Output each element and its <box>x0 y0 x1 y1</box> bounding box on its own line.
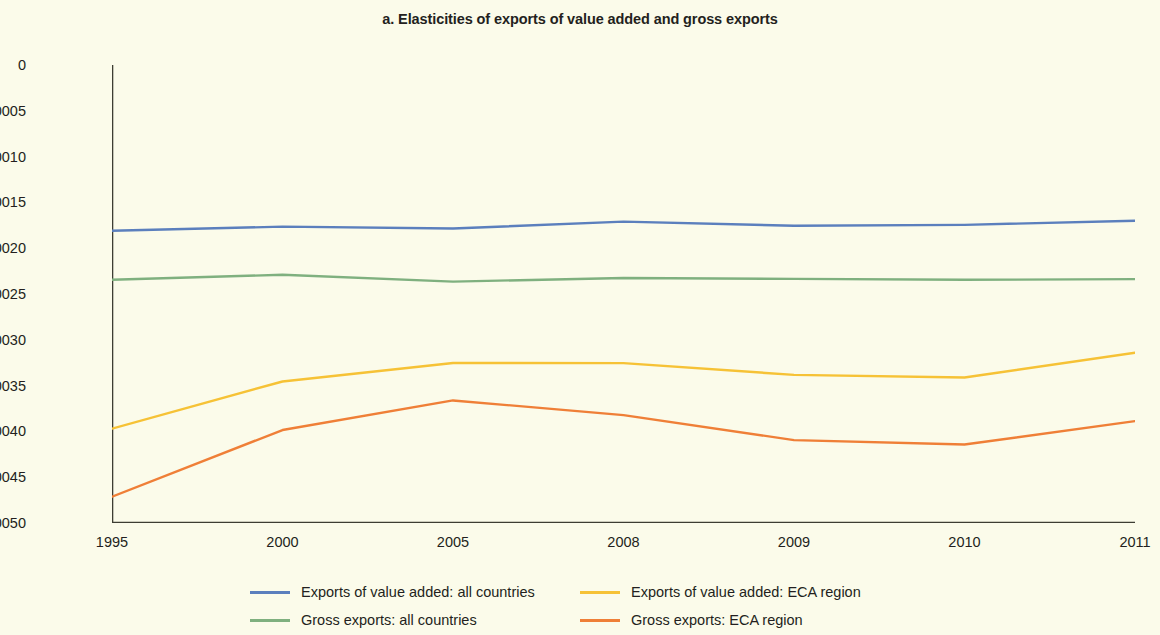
legend-color-swatch <box>250 619 290 622</box>
legend-label: Gross exports: all countries <box>301 612 477 628</box>
series-line <box>112 221 1135 231</box>
legend-color-swatch <box>580 619 620 622</box>
x-axis-tick-label: 2005 <box>437 534 469 550</box>
y-axis-tick-label: –0.00040 <box>0 423 26 439</box>
legend-row: Exports of value added: all countriesExp… <box>0 578 1160 606</box>
y-axis-tick-label: –0.00045 <box>0 469 26 485</box>
chart-figure: a. Elasticities of exports of value adde… <box>0 0 1160 635</box>
x-axis-tick-label: 2009 <box>778 534 810 550</box>
y-axis-tick-label: –0.00015 <box>0 194 26 210</box>
plot-area <box>112 65 1135 523</box>
x-axis-tick-label: 2000 <box>266 534 298 550</box>
legend-item[interactable]: Exports of value added: ECA region <box>580 584 910 600</box>
y-axis-tick-label: –0.00005 <box>0 103 26 119</box>
series-line <box>112 400 1135 496</box>
y-axis-tick-label: –0.00025 <box>0 286 26 302</box>
x-axis-tick-label: 2011 <box>1119 534 1150 550</box>
legend-color-swatch <box>250 591 290 594</box>
series-line <box>112 353 1135 429</box>
legend-label: Exports of value added: ECA region <box>631 584 861 600</box>
y-axis-tick-label: –0.00010 <box>0 149 26 165</box>
x-axis-tick-label: 2008 <box>607 534 639 550</box>
y-axis-tick-label: –0.00035 <box>0 378 26 394</box>
legend-item[interactable]: Gross exports: all countries <box>250 612 580 628</box>
y-axis-tick-label: –0.00020 <box>0 240 26 256</box>
series-line <box>112 275 1135 282</box>
line-chart-svg <box>112 65 1135 523</box>
legend-item[interactable]: Gross exports: ECA region <box>580 612 910 628</box>
x-axis-tick-label: 1995 <box>96 534 128 550</box>
legend-color-swatch <box>580 591 620 594</box>
legend-row: Gross exports: all countriesGross export… <box>0 606 1160 634</box>
y-axis-tick-label: –0.00030 <box>0 332 26 348</box>
legend-label: Gross exports: ECA region <box>631 612 803 628</box>
chart-title: a. Elasticities of exports of value adde… <box>0 11 1160 27</box>
chart-legend: Exports of value added: all countriesExp… <box>0 578 1160 634</box>
x-axis-tick-label: 2010 <box>948 534 980 550</box>
legend-label: Exports of value added: all countries <box>301 584 535 600</box>
legend-item[interactable]: Exports of value added: all countries <box>250 584 580 600</box>
y-axis-tick-label: 0 <box>18 57 26 73</box>
y-axis-tick-label: –0.00050 <box>0 515 26 531</box>
